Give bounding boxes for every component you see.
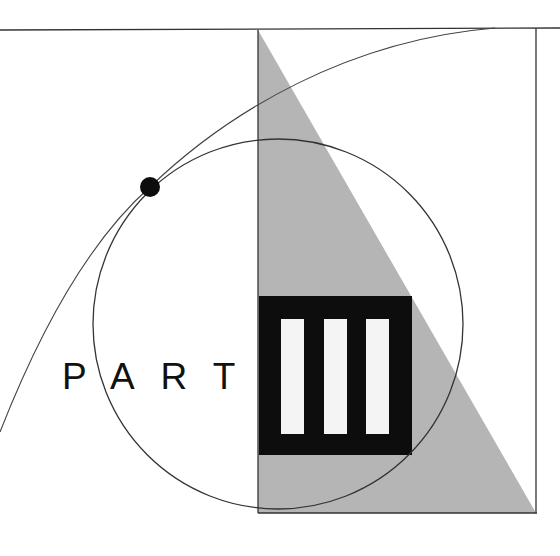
numeral-bar-2 <box>324 319 347 434</box>
numeral-bar-3 <box>366 319 389 434</box>
part-label: PART <box>62 358 261 395</box>
part-three-title-graphic <box>0 0 560 556</box>
numeral-bar-1 <box>281 319 304 434</box>
tangent-dot <box>140 177 160 197</box>
